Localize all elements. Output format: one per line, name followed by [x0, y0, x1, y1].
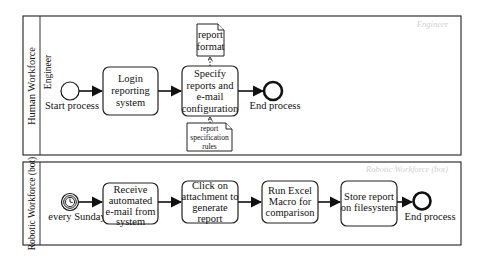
start-event-label: Start process: [45, 100, 99, 111]
data-object-label-line: format: [197, 41, 225, 52]
task-label-line: Store report: [344, 191, 394, 202]
task-label-line: Receive: [114, 184, 148, 195]
task-specify-reports[interactable]: Specify reports and e-mail configuration: [182, 66, 239, 116]
task-label-line: attachment to: [182, 191, 239, 202]
task-label-line: configuration: [182, 103, 239, 114]
timer-event-label: every Sunday: [48, 211, 106, 222]
task-label-line: reports and: [187, 80, 235, 91]
pool-label-human-workforce: Human Workforce: [26, 47, 37, 125]
end-event-icon: [414, 193, 431, 210]
task-label-line: e-mail: [197, 91, 224, 102]
lane-watermark-engineer: Engineer: [416, 19, 449, 29]
task-label-line: automated: [109, 195, 153, 206]
task-label-line: Specify: [194, 68, 227, 79]
data-object-label-line: report: [201, 124, 220, 133]
task-label-line: on filesystem: [341, 202, 397, 213]
task-label-line: report: [197, 213, 222, 224]
pool-human-workforce: Human Workforce Engineer Engineer: [23, 16, 461, 155]
start-event-icon: [61, 82, 79, 100]
data-object-report-specification-rules[interactable]: report specification rules: [187, 123, 232, 151]
task-login-reporting-system[interactable]: Login reporting system: [103, 67, 158, 115]
task-click-attachment[interactable]: Click on attachment to generate report: [182, 180, 239, 224]
lane-label-engineer: Engineer: [43, 54, 53, 89]
end-event-label: End process: [404, 211, 455, 222]
lane-watermark-robotic: Robotic Workforce (bot): [365, 164, 448, 174]
task-label-line: system: [116, 216, 145, 227]
bpmn-diagram: Human Workforce Engineer Engineer Start …: [0, 0, 483, 256]
task-label-line: Click on: [192, 180, 229, 191]
end-event-icon: [264, 82, 282, 100]
data-object-label-line: rules: [202, 142, 217, 151]
task-label-line: Login: [118, 73, 144, 84]
task-label-line: comparison: [266, 207, 316, 218]
end-event-label: End process: [249, 100, 300, 111]
task-label-line: generate: [192, 202, 228, 213]
data-object-label-line: specification: [190, 133, 229, 142]
task-store-report[interactable]: Store report on filesystem: [341, 181, 397, 226]
pool-label-robotic-workforce: Robotic Workforce (bot): [27, 157, 38, 251]
task-label-line: Macro for: [269, 196, 312, 207]
task-receive-automated-email[interactable]: Receive automated e-mail from system: [103, 183, 158, 227]
task-run-excel-macro[interactable]: Run Excel Macro for comparison: [262, 181, 318, 223]
task-label-line: e-mail from: [106, 206, 156, 217]
task-label-line: Run Excel: [268, 185, 312, 196]
task-label-line: system: [116, 97, 145, 108]
task-label-line: reporting: [111, 85, 150, 96]
data-object-label-line: report: [198, 29, 223, 40]
data-object-report-format[interactable]: report format: [197, 24, 225, 56]
